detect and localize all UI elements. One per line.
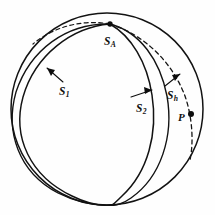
great-circle-s1-back-limb xyxy=(12,24,112,205)
leader-s2 xyxy=(131,87,152,97)
label-s-a: SA xyxy=(104,32,116,49)
label-s-1-subscript: 1 xyxy=(66,90,70,99)
intersection-dot-sa xyxy=(107,21,112,26)
leader-sh xyxy=(165,74,180,86)
label-p: P xyxy=(178,108,185,124)
label-s-1: S1 xyxy=(59,82,70,99)
point-dot-p xyxy=(188,111,194,117)
label-s-2: S2 xyxy=(136,99,147,116)
label-s-2-base: S xyxy=(136,102,143,114)
label-s-h-base: S xyxy=(167,89,174,101)
label-s-2-subscript: 2 xyxy=(143,107,147,116)
label-s-a-base: S xyxy=(104,35,111,47)
great-circle-s2-arc xyxy=(110,24,154,205)
label-s-a-subscript: A xyxy=(111,40,116,49)
great-circle-s1-arc xyxy=(20,24,112,205)
label-s-h-subscript: h xyxy=(174,94,178,103)
label-p-base: P xyxy=(178,111,185,123)
figure-canvas: SA S1 S2 Sh P xyxy=(0,0,215,215)
label-s-h: Sh xyxy=(167,86,178,103)
leader-s1 xyxy=(47,68,63,82)
label-s-1-base: S xyxy=(59,85,66,97)
